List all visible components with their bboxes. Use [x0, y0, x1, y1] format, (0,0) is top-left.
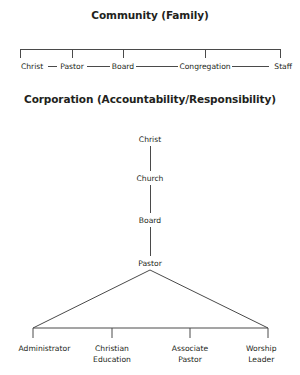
community-node-pastor: Pastor [60, 61, 84, 72]
corporation-chain-node-christ: Christ [139, 134, 161, 145]
corporation-chain-node-pastor: Pastor [138, 258, 162, 269]
corporation-leaf-christian: ChristianEducation [93, 343, 131, 365]
corporation-leaf-associate: AssociatePastor [172, 343, 208, 365]
corporation-leaf-worship: WorshipLeader [246, 343, 277, 365]
community-bracket-lines [20, 49, 280, 66]
diagram-connector-lines [0, 0, 300, 375]
community-node-congregation: Congregation [179, 61, 230, 72]
leaf-label-line2: Pastor [172, 354, 208, 365]
corporation-chain-node-church: Church [137, 173, 164, 184]
leaf-label-line1: Administrator [19, 343, 71, 354]
leaf-label-line1: Worship [246, 343, 277, 354]
corporation-fan-lines [33, 270, 268, 338]
community-node-christ: Christ [21, 61, 43, 72]
fan-diagonal-right [150, 270, 268, 328]
community-node-board: Board [112, 61, 134, 72]
leaf-label-line1: Associate [172, 343, 208, 354]
community-node-staff: Staff [274, 61, 292, 72]
leaf-label-line1: Christian [93, 343, 131, 354]
corporation-leaf-administrator: Administrator [19, 343, 71, 354]
corporation-chain-node-board: Board [139, 215, 161, 226]
organizational-chart-page: Community (Family) Corporation (Accounta… [0, 0, 300, 375]
leaf-label-line2: Education [93, 354, 131, 365]
leaf-label-line2: Leader [246, 354, 277, 365]
fan-diagonal-left [33, 270, 150, 328]
